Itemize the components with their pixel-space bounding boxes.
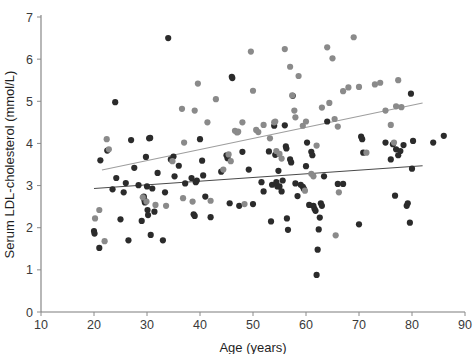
data-point — [405, 200, 411, 206]
data-point — [139, 218, 145, 224]
data-point — [324, 44, 330, 50]
data-point — [388, 156, 394, 162]
data-point — [377, 80, 383, 86]
data-point — [309, 152, 315, 158]
data-point — [235, 129, 241, 135]
x-axis-ticks: 102030405060708090 — [34, 312, 472, 332]
data-point — [144, 183, 150, 189]
figure-root: 01234567 102030405060708090 Age (years) … — [0, 0, 476, 354]
data-point — [104, 136, 110, 142]
data-point — [143, 198, 149, 204]
data-point — [407, 220, 413, 226]
x-tick-label: 70 — [352, 318, 366, 332]
data-point — [335, 123, 341, 129]
data-point — [409, 166, 415, 172]
data-points-layer — [91, 34, 447, 278]
data-point — [283, 145, 289, 151]
data-point — [279, 156, 285, 162]
data-point — [319, 203, 325, 209]
data-point — [179, 106, 185, 112]
data-point — [241, 201, 247, 207]
data-point — [279, 188, 285, 194]
series-dark-group — [91, 35, 447, 278]
data-point — [229, 75, 235, 81]
data-point — [324, 118, 330, 124]
data-point — [285, 227, 291, 233]
data-point — [135, 182, 141, 188]
data-point — [96, 245, 102, 251]
data-point — [392, 193, 398, 199]
data-point — [291, 107, 297, 113]
data-point — [112, 99, 118, 105]
data-point — [96, 207, 102, 213]
data-point — [410, 138, 416, 144]
data-point — [226, 151, 232, 157]
data-point — [393, 103, 399, 109]
x-tick-label: 30 — [140, 318, 154, 332]
data-point — [204, 119, 210, 125]
data-point — [113, 175, 119, 181]
data-point — [181, 139, 187, 145]
data-point — [125, 237, 131, 243]
data-point — [430, 139, 436, 145]
data-point — [316, 226, 322, 232]
data-point — [292, 180, 298, 186]
data-point — [315, 247, 321, 253]
data-point — [197, 136, 203, 142]
x-axis-title: Age (years) — [219, 340, 286, 354]
data-point — [152, 202, 158, 208]
data-point — [356, 84, 362, 90]
y-axis-ticks: 01234567 — [26, 11, 41, 320]
data-point — [351, 34, 357, 40]
data-point — [195, 80, 201, 86]
data-point — [102, 238, 108, 244]
data-point — [292, 114, 298, 120]
x-tick-label: 80 — [405, 318, 419, 332]
x-tick-label: 60 — [299, 318, 313, 332]
data-point — [250, 88, 256, 94]
data-point — [356, 221, 362, 227]
data-point — [388, 122, 394, 128]
data-point — [97, 157, 103, 163]
data-point — [239, 119, 245, 125]
data-point — [162, 189, 168, 195]
data-point — [382, 139, 388, 145]
data-point — [149, 185, 155, 191]
data-point — [397, 148, 403, 154]
plot-axes — [41, 15, 465, 312]
data-point — [227, 200, 233, 206]
data-point — [317, 215, 323, 221]
data-point — [202, 193, 208, 199]
data-point — [266, 148, 272, 154]
data-point — [236, 203, 242, 209]
data-point — [304, 139, 310, 145]
y-tick-label: 1 — [26, 263, 33, 277]
y-tick-label: 5 — [26, 95, 33, 109]
data-point — [169, 158, 175, 164]
data-point — [372, 81, 378, 87]
x-tick-label: 90 — [458, 318, 472, 332]
data-point — [239, 149, 245, 155]
data-point — [395, 77, 401, 83]
data-point — [326, 100, 332, 106]
data-point — [151, 209, 157, 215]
data-point — [255, 129, 261, 135]
data-point — [310, 173, 316, 179]
data-point — [340, 181, 346, 187]
data-point — [200, 172, 206, 178]
data-point — [250, 201, 256, 207]
regression-lines — [94, 103, 423, 189]
y-tick-label: 0 — [26, 306, 33, 320]
data-point — [287, 64, 293, 70]
data-point — [117, 216, 123, 222]
data-point — [321, 173, 327, 179]
data-point — [182, 180, 188, 186]
data-point — [268, 218, 274, 224]
data-point — [284, 215, 290, 221]
data-point — [332, 116, 338, 122]
data-point — [280, 177, 286, 183]
data-point — [261, 188, 267, 194]
data-point — [194, 177, 200, 183]
data-point — [228, 158, 234, 164]
data-point — [171, 173, 177, 179]
